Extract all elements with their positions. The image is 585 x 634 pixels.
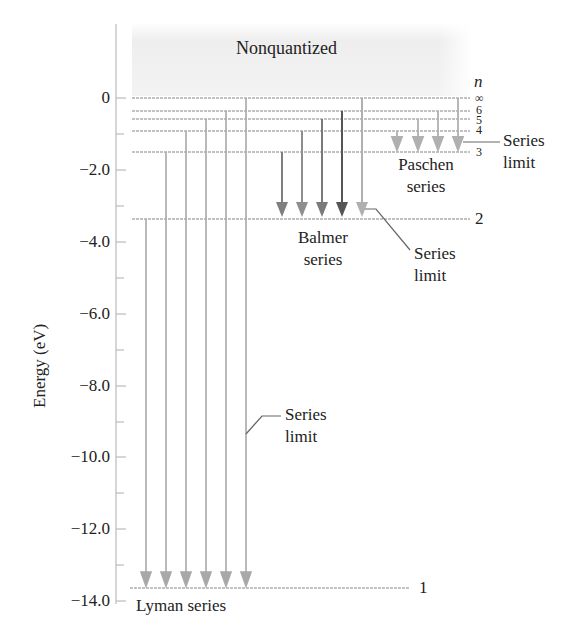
- balmer-arrows: [276, 98, 368, 217]
- paschen-series-label-2: series: [386, 177, 466, 197]
- paschen-series-label-1: Paschen: [386, 155, 466, 175]
- level-label-4: 4: [476, 124, 482, 136]
- nonquantized-label: Nonquantized: [236, 38, 337, 59]
- tick-label-m14: −14.0: [40, 591, 110, 611]
- tick-label-m8: −8.0: [40, 376, 110, 396]
- tick-label-m2: −2.0: [40, 160, 110, 180]
- tick-label-m6: −6.0: [40, 304, 110, 324]
- paschen-arrows: [392, 98, 463, 150]
- leader-balmer-limit: [365, 209, 410, 250]
- balmer-limit-label-2: limit: [414, 266, 446, 286]
- balmer-series-label-2: series: [288, 250, 358, 270]
- level-label-2: 2: [475, 209, 484, 229]
- paschen-limit-label-2: limit: [503, 153, 535, 173]
- paschen-limit-label-1: Series: [503, 131, 545, 151]
- tick-label-m10: −10.0: [40, 447, 110, 467]
- level-label-3: 3: [476, 146, 482, 158]
- leader-lyman-limit: [246, 416, 281, 434]
- lyman-arrows: [141, 98, 251, 586]
- nonquantized-region: [132, 22, 472, 96]
- tick-label-0: 0: [40, 88, 110, 108]
- balmer-limit-label-1: Series: [414, 244, 456, 264]
- y-axis: [116, 24, 126, 604]
- tick-label-m12: −12.0: [40, 519, 110, 539]
- tick-label-m4: −4.0: [40, 232, 110, 252]
- level-label-1: 1: [419, 578, 428, 598]
- balmer-series-label-1: Balmer: [288, 228, 358, 248]
- lyman-limit-label-2: limit: [285, 427, 317, 447]
- lyman-series-label: Lyman series: [136, 596, 226, 616]
- lyman-limit-label-1: Series: [285, 405, 327, 425]
- n-header: n: [474, 72, 483, 92]
